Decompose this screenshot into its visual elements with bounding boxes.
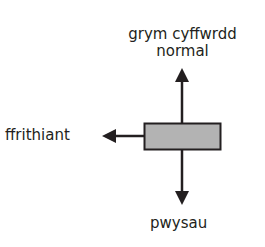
friction-label: ffrithiant <box>5 127 70 144</box>
friction-arrow <box>102 129 144 143</box>
normal-force-label: grym cyffwrdd normal <box>110 26 255 60</box>
weight-label: pwysau <box>150 215 207 232</box>
weight-arrow <box>175 150 189 205</box>
normal-force-label-line2: normal <box>110 43 255 60</box>
normal-force-label-line1: grym cyffwrdd <box>110 26 255 43</box>
object-block <box>145 124 221 150</box>
normal-force-arrow <box>175 68 189 123</box>
